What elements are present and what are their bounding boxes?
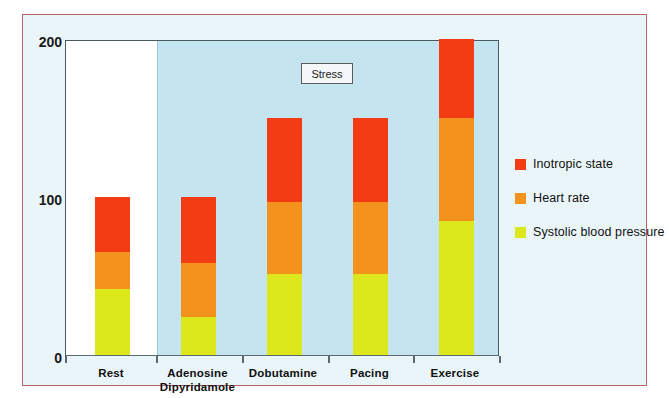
bar-segment-systolic-blood-pressure bbox=[353, 274, 388, 355]
x-axis-label-line: Exercise bbox=[431, 367, 480, 379]
y-tick-label-100: 100 bbox=[39, 193, 62, 207]
bar-segment-systolic-blood-pressure bbox=[267, 274, 302, 355]
legend-item: Heart rate bbox=[515, 181, 669, 215]
bar-segment-inotropic-state bbox=[95, 197, 130, 252]
bar-dobutamine bbox=[267, 118, 302, 355]
bar-pacing bbox=[353, 118, 388, 355]
stress-annotation-label: Stress bbox=[311, 68, 342, 80]
x-axis-label-line: Dipyridamole bbox=[138, 380, 258, 394]
bar-segment-inotropic-state bbox=[181, 197, 216, 263]
bar-segment-inotropic-state bbox=[439, 39, 474, 118]
bar-segment-heart-rate bbox=[181, 263, 216, 317]
bar-adenosine-dipyridamole bbox=[181, 197, 216, 355]
bar-segment-systolic-blood-pressure bbox=[95, 289, 130, 355]
y-tick-label-0: 0 bbox=[54, 351, 62, 365]
bar-segment-heart-rate bbox=[267, 202, 302, 275]
x-axis-tick bbox=[65, 356, 67, 363]
x-axis-tick bbox=[328, 356, 330, 363]
x-axis-label-exercise: Exercise bbox=[395, 366, 515, 380]
y-tick-label-200: 200 bbox=[39, 35, 62, 49]
legend-item: Systolic blood pressure bbox=[515, 215, 669, 249]
legend-item-label: Systolic blood pressure bbox=[533, 225, 665, 239]
x-axis-label-line: Dobutamine bbox=[249, 367, 317, 379]
legend-swatch-icon bbox=[515, 227, 526, 238]
bar-exercise bbox=[439, 39, 474, 355]
bar-segment-systolic-blood-pressure bbox=[181, 317, 216, 355]
bar-segment-inotropic-state bbox=[353, 118, 388, 202]
legend-item: Inotropic state bbox=[515, 147, 669, 181]
stress-region-divider bbox=[157, 41, 158, 355]
bar-segment-heart-rate bbox=[439, 118, 474, 221]
legend: Inotropic stateHeart rateSystolic blood … bbox=[515, 147, 669, 249]
bar-rest bbox=[95, 197, 130, 355]
plot-area: 200 100 0 bbox=[65, 40, 499, 356]
x-axis-tick bbox=[413, 356, 415, 363]
stress-annotation-box: Stress bbox=[301, 63, 353, 84]
legend-item-label: Inotropic state bbox=[533, 157, 613, 171]
figure-frame: 200 100 0 Stress RestAdenosineDipyridamo… bbox=[22, 14, 647, 386]
bar-segment-heart-rate bbox=[95, 252, 130, 288]
x-axis-label-line: Rest bbox=[98, 367, 124, 379]
legend-swatch-icon bbox=[515, 193, 526, 204]
bar-segment-heart-rate bbox=[353, 202, 388, 275]
x-axis-tick bbox=[156, 356, 158, 363]
x-axis-label-line: Pacing bbox=[350, 367, 389, 379]
bar-segment-systolic-blood-pressure bbox=[439, 221, 474, 355]
legend-item-label: Heart rate bbox=[533, 191, 590, 205]
x-axis-label-line: Adenosine bbox=[167, 367, 228, 379]
x-axis-tick bbox=[499, 356, 501, 363]
x-axis-tick bbox=[242, 356, 244, 363]
bar-segment-inotropic-state bbox=[267, 118, 302, 202]
legend-swatch-icon bbox=[515, 159, 526, 170]
